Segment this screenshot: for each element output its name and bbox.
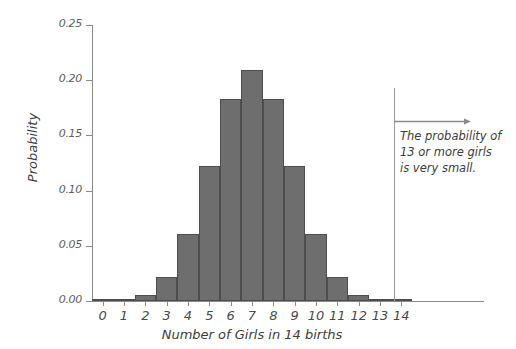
histogram-bar	[327, 277, 348, 302]
x-axis-tick	[252, 301, 253, 306]
x-axis-tick	[231, 301, 232, 306]
y-axis-label: Probability	[25, 88, 40, 208]
y-axis-tick: 0.15	[86, 135, 92, 136]
x-axis-tick	[124, 301, 125, 306]
x-axis-tick	[145, 301, 146, 306]
histogram-bar	[199, 166, 220, 301]
arrow-right-icon	[394, 111, 472, 120]
histogram-bar	[305, 234, 326, 301]
x-axis-tick	[316, 301, 317, 306]
x-axis-tick	[209, 301, 210, 306]
x-axis-label: Number of Girls in 14 births	[92, 327, 412, 342]
histogram-bar	[241, 70, 262, 301]
x-axis-tick	[401, 301, 402, 306]
x-axis-tick	[273, 301, 274, 306]
histogram-bar	[156, 277, 177, 302]
annotation-line-2: 13 or more girls	[400, 144, 512, 160]
y-axis-tick: 0.25	[86, 25, 92, 26]
histogram-bar	[284, 166, 305, 301]
histogram-figure: 0.000.050.100.150.200.25 012345678910111…	[0, 0, 516, 349]
y-axis-tick-label: 0.15	[59, 127, 82, 140]
x-axis-tick	[295, 301, 296, 306]
histogram-bar	[177, 234, 198, 301]
y-axis-tick-label: 0.25	[59, 17, 82, 30]
x-axis-tick	[359, 301, 360, 306]
x-axis-tick	[337, 301, 338, 306]
histogram-bar	[263, 99, 284, 301]
x-axis-tick	[103, 301, 104, 306]
y-axis-tick: 0.05	[86, 246, 92, 247]
y-axis-tick: 0.10	[86, 191, 92, 192]
y-axis-tick-label: 0.05	[59, 238, 82, 251]
y-axis-tick-label: 0.00	[59, 293, 82, 306]
y-axis-tick: 0.00	[86, 301, 92, 302]
tail-annotation-text: The probability of 13 or more girls is v…	[400, 128, 512, 176]
histogram-bar	[220, 99, 241, 301]
x-axis-tick-label: 14	[388, 308, 414, 323]
y-axis-tick-label: 0.20	[59, 72, 82, 85]
y-axis-tick-label: 0.10	[59, 183, 82, 196]
x-axis-tick	[188, 301, 189, 306]
x-axis-tick	[380, 301, 381, 306]
annotation-line-3: is very small.	[400, 160, 512, 176]
x-axis-tick	[167, 301, 168, 306]
x-axis-line	[92, 301, 484, 302]
annotation-line-1: The probability of	[400, 128, 512, 144]
y-axis-tick: 0.20	[86, 80, 92, 81]
